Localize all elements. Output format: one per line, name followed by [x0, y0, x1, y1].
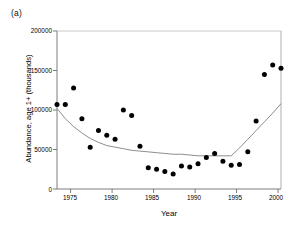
data-point: [196, 161, 201, 166]
y-axis-ticks: [53, 31, 57, 189]
data-point: [137, 144, 142, 149]
data-point: [220, 159, 225, 164]
x-axis-ticks: [71, 189, 279, 193]
data-point: [113, 137, 118, 142]
y-tick-label-100000: 100000: [8, 106, 52, 113]
data-point-group: [55, 62, 284, 176]
x-tick-label-1985: 1985: [140, 194, 164, 201]
data-point: [129, 113, 134, 118]
y-tick-label-150000: 150000: [8, 67, 52, 74]
data-point: [171, 171, 176, 176]
data-point: [63, 102, 68, 107]
x-tick-label-1995: 1995: [223, 194, 247, 201]
data-point: [71, 85, 76, 90]
data-point: [262, 72, 267, 77]
data-point: [254, 119, 259, 124]
data-point: [96, 128, 101, 133]
figure-panel: (a) Abundance, age 1+ (thousands) Year 2…: [0, 0, 301, 232]
data-point: [237, 162, 242, 167]
data-point: [204, 155, 209, 160]
data-point: [146, 165, 151, 170]
x-axis-label: Year: [57, 209, 281, 218]
x-tick-label-1975: 1975: [58, 194, 82, 201]
y-tick-label-200000: 200000: [8, 27, 52, 34]
axis-frame: [57, 31, 281, 189]
data-point: [88, 145, 93, 150]
data-point: [79, 116, 84, 121]
data-point: [55, 102, 60, 107]
x-tick-label-2000: 2000: [264, 194, 288, 201]
x-tick-label-1990: 1990: [182, 194, 206, 201]
data-point: [270, 62, 275, 67]
data-point: [187, 164, 192, 169]
y-tick-label-0: 0: [8, 186, 52, 193]
data-point: [121, 108, 126, 113]
data-point: [212, 151, 217, 156]
data-point: [245, 149, 250, 154]
y-tick-label-50000: 50000: [8, 146, 52, 153]
data-point: [162, 169, 167, 174]
x-tick-label-1980: 1980: [99, 194, 123, 201]
data-point: [104, 133, 109, 138]
panel-label: (a): [11, 8, 22, 18]
data-point: [279, 66, 284, 71]
data-point: [229, 163, 234, 168]
data-point: [179, 164, 184, 169]
data-point: [154, 167, 159, 172]
